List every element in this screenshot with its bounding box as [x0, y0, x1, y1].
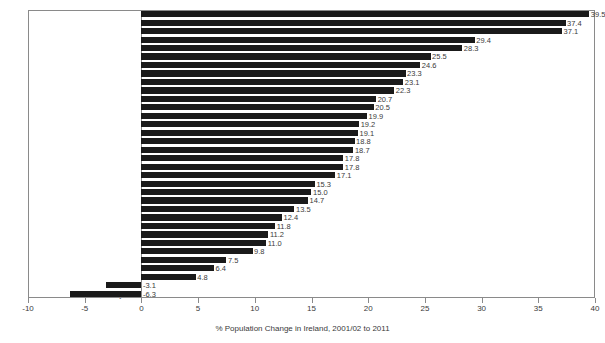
- bar: [141, 130, 358, 136]
- bar: [141, 138, 354, 144]
- bar: [106, 282, 141, 288]
- bar: [141, 231, 268, 237]
- x-tick: [595, 298, 596, 303]
- bar: [141, 189, 311, 195]
- bar: [141, 164, 343, 170]
- bar-value-label: 14.7: [310, 196, 325, 205]
- bar-row: 11.0: [28, 240, 595, 246]
- bar-value-label: 7.5: [228, 256, 238, 265]
- bar-row: 17.8: [28, 155, 595, 161]
- bar-row: 15.3: [28, 181, 595, 187]
- bar-value-label: 6.4: [215, 264, 225, 273]
- bar-value-label: 13.5: [296, 205, 311, 214]
- bar: [141, 104, 373, 110]
- x-tick: [28, 298, 29, 303]
- x-tick-label: 35: [534, 304, 543, 314]
- bar: [141, 79, 403, 85]
- bar: [141, 197, 308, 203]
- bar-row: 37.1: [28, 28, 595, 34]
- bar-row: 28.3: [28, 45, 595, 51]
- bar-value-label: 11.0: [268, 239, 282, 248]
- bar-row: 9.8: [28, 248, 595, 254]
- bar-value-label: 22.3: [396, 86, 411, 95]
- bar: [141, 147, 353, 153]
- x-tick: [538, 298, 539, 303]
- bar-row: 11.8: [28, 223, 595, 229]
- bar-value-label: 39.5: [591, 10, 605, 19]
- bar-row: 13.5: [28, 206, 595, 212]
- bar-row: 17.1: [28, 172, 595, 178]
- bar: [141, 113, 367, 119]
- bar: [141, 223, 275, 229]
- bar-row: 29.4: [28, 37, 595, 43]
- bar: [141, 265, 214, 271]
- bar: [141, 11, 589, 17]
- x-tick-label: 40: [591, 304, 600, 314]
- bar: [141, 214, 282, 220]
- bar-row: 19.9: [28, 113, 595, 119]
- x-tick: [198, 298, 199, 303]
- bar-value-label: 9.8: [254, 247, 264, 256]
- x-tick: [368, 298, 369, 303]
- bar-row: 7.5: [28, 257, 595, 263]
- population-change-bar-chart: FingalMeathLaoighisCavanKildareLongfordW…: [0, 0, 605, 343]
- bar-row: 20.5: [28, 104, 595, 110]
- bar-row: -6.3: [28, 291, 595, 297]
- bar-row: 18.7: [28, 147, 595, 153]
- bar: [141, 45, 462, 51]
- bar-row: 11.2: [28, 231, 595, 237]
- x-tick-label: 20: [364, 304, 373, 314]
- bar-row: 39.5: [28, 11, 595, 17]
- bar: [141, 248, 252, 254]
- bar: [141, 37, 474, 43]
- x-tick-label: 0: [139, 304, 143, 314]
- bar-row: 23.1: [28, 79, 595, 85]
- bar-row: 6.4: [28, 265, 595, 271]
- x-tick: [141, 298, 142, 303]
- x-tick-label: 25: [420, 304, 429, 314]
- bar-value-label: 37.1: [564, 27, 579, 36]
- x-tick-label: 30: [477, 304, 486, 314]
- bar-row: 24.6: [28, 62, 595, 68]
- bar: [141, 20, 565, 26]
- bar: [141, 155, 343, 161]
- bar: [141, 28, 562, 34]
- bar: [141, 181, 315, 187]
- bar: [141, 53, 430, 59]
- bar-row: 15.0: [28, 189, 595, 195]
- x-tick: [482, 298, 483, 303]
- x-tick: [85, 298, 86, 303]
- x-tick-label: 15: [307, 304, 316, 314]
- bar-row: 18.8: [28, 138, 595, 144]
- bar-value-label: 17.1: [337, 171, 352, 180]
- bar-row: 14.7: [28, 197, 595, 203]
- bar-row: 22.3: [28, 87, 595, 93]
- bar: [141, 274, 195, 280]
- bar: [141, 62, 420, 68]
- bar: [141, 70, 405, 76]
- bar: [141, 172, 335, 178]
- x-tick: [255, 298, 256, 303]
- x-tick-label: 5: [196, 304, 200, 314]
- bar: [141, 240, 266, 246]
- bar: [141, 96, 376, 102]
- plot-area: 39.537.437.129.428.325.524.623.323.122.3…: [28, 10, 595, 298]
- x-tick-label: -5: [81, 304, 88, 314]
- bar-value-label: 28.3: [464, 44, 479, 53]
- x-axis-title: % Population Change in Ireland, 2001/02 …: [0, 324, 605, 333]
- bar-row: 19.2: [28, 121, 595, 127]
- bar-row: 4.8: [28, 274, 595, 280]
- bar-row: 23.3: [28, 70, 595, 76]
- bar-value-label: 29.4: [476, 36, 491, 45]
- bar: [70, 291, 141, 297]
- bar-row: 12.4: [28, 214, 595, 220]
- bar-row: 25.5: [28, 53, 595, 59]
- x-tick: [425, 298, 426, 303]
- bar-row: 20.7: [28, 96, 595, 102]
- x-tick: [312, 298, 313, 303]
- bar: [141, 257, 226, 263]
- bar: [141, 121, 359, 127]
- bar-value-label: 4.8: [197, 273, 207, 282]
- bar: [141, 206, 294, 212]
- bar-row: 17.8: [28, 164, 595, 170]
